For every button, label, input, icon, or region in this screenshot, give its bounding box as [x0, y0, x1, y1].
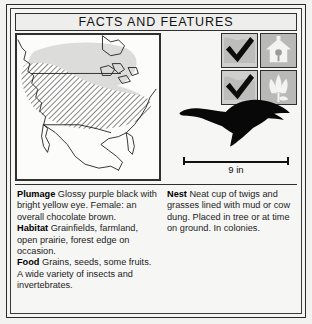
card-title-bar: FACTS AND FEATURES [15, 13, 297, 31]
illustration-panel: 9 in [165, 33, 297, 181]
facts-and-features-card-screen: FACTS AND FEATURES [0, 0, 312, 324]
card-inner-frame: FACTS AND FEATURES [10, 8, 302, 314]
fact-entry-plumage: Plumage Glossy purple black with bright … [17, 189, 157, 223]
card-outer-frame: FACTS AND FEATURES [6, 4, 306, 318]
scale-bar-label: 9 in [183, 164, 289, 175]
facts-column-left: Plumage Glossy purple black with bright … [17, 189, 157, 309]
birdhouse-icon [261, 34, 296, 67]
content-divider [15, 184, 297, 185]
scale-bar: 9 in [183, 157, 289, 179]
fact-entry-habitat: Habitat Grainfields, farmland, open prai… [17, 223, 157, 257]
flying-bird-silhouette-icon [165, 89, 297, 151]
fact-label-food: Food [17, 257, 39, 267]
facts-column-right: Nest Neat cup of twigs and grasses lined… [167, 189, 295, 309]
scale-bar-line [183, 161, 289, 163]
upper-region: 9 in [15, 33, 297, 181]
page-title: FACTS AND FEATURES [79, 15, 234, 29]
facts-columns: Plumage Glossy purple black with bright … [17, 189, 295, 309]
fact-label-plumage: Plumage [17, 189, 55, 199]
fact-label-nest: Nest [167, 189, 187, 199]
icon-cell-birdhouse [260, 33, 297, 68]
range-map-panel [15, 33, 161, 181]
icon-cell-check-1 [221, 33, 258, 68]
checkmark-icon [222, 34, 257, 67]
fact-entry-food: Food Grains, seeds, some fruits. A wide … [17, 257, 157, 291]
fact-label-habitat: Habitat [17, 223, 48, 233]
fact-entry-nest: Nest Neat cup of twigs and grasses lined… [167, 189, 295, 235]
bird-silhouette-wrap [165, 89, 297, 151]
range-map-graphic [16, 34, 160, 180]
